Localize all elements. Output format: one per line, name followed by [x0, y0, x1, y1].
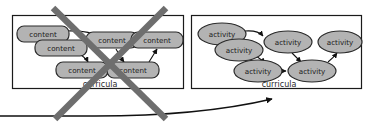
- curricula-transition-arrow: [0, 99, 272, 116]
- activity-node-label: activity: [275, 38, 302, 47]
- content-node-label: content: [47, 44, 75, 53]
- diagram-canvas: content content content content content …: [0, 0, 374, 129]
- activity-node-label: activity: [209, 30, 236, 39]
- activity-node-label: activity: [226, 46, 253, 55]
- activity-node[interactable]: activity: [318, 31, 362, 53]
- activity-node-label: activity: [245, 67, 272, 76]
- content-node-label: content: [143, 36, 171, 45]
- content-node-label: content: [68, 66, 96, 75]
- activity-node-label: activity: [327, 38, 354, 47]
- activity-node[interactable]: activity: [264, 31, 312, 53]
- content-node-label: content: [29, 30, 57, 39]
- right-panel-label: curricula: [262, 80, 297, 89]
- curricula-diagram: content content content content content …: [0, 0, 374, 129]
- activity-curricula-panel[interactable]: activity activity activity activity acti…: [192, 16, 363, 89]
- content-node-label: content: [98, 36, 126, 45]
- activity-node[interactable]: activity: [215, 39, 263, 61]
- content-node[interactable]: content: [35, 40, 87, 56]
- activity-node-label: activity: [299, 67, 326, 76]
